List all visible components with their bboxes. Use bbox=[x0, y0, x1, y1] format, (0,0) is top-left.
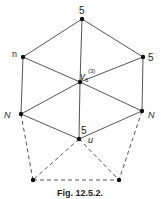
edge bbox=[21, 82, 80, 114]
vertex-lower-left bbox=[19, 112, 23, 116]
edge bbox=[23, 19, 82, 57]
dashed-edge bbox=[21, 114, 33, 180]
label-bottom-center-degree: 5 bbox=[81, 125, 87, 136]
label-bottom-center-name: u bbox=[88, 135, 93, 145]
vertex-bottom-left bbox=[31, 178, 35, 182]
label-upper-right-degree: 5 bbox=[148, 52, 154, 63]
vertex-bottom-right bbox=[117, 178, 121, 182]
edge bbox=[21, 114, 79, 139]
edge bbox=[23, 57, 80, 82]
label-upper-left: n bbox=[12, 49, 17, 59]
edge bbox=[82, 19, 143, 57]
edge bbox=[142, 57, 143, 111]
edge bbox=[79, 82, 80, 139]
edge bbox=[21, 57, 23, 114]
edge bbox=[80, 82, 142, 111]
label-lower-right: N bbox=[148, 110, 155, 120]
graph-diagram: 5 n 5 v 6 (3) N N 5 u Fig. 12.5.2. bbox=[0, 0, 161, 199]
label-lower-left: N bbox=[4, 110, 11, 120]
figure-caption: Fig. 12.5.2. bbox=[57, 188, 103, 198]
label-center-subscript: 6 bbox=[85, 77, 89, 83]
vertex-upper-right bbox=[141, 55, 145, 59]
dashed-edge bbox=[119, 111, 142, 180]
vertex-lower-right bbox=[140, 109, 144, 113]
vertex-upper-left bbox=[21, 55, 25, 59]
vertex-top bbox=[80, 17, 84, 21]
label-center-superscript: (3) bbox=[88, 68, 95, 74]
label-top-degree: 5 bbox=[79, 5, 85, 16]
dashed-edge bbox=[33, 139, 79, 180]
vertices bbox=[19, 17, 145, 182]
dashed-edge bbox=[79, 139, 119, 180]
vertex-bottom-center bbox=[77, 137, 81, 141]
